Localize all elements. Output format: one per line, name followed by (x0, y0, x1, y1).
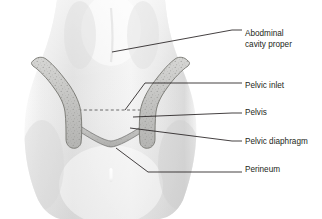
label-pelvic-inlet: Pelvic inlet (245, 81, 285, 90)
label-abdominal-cavity-proper-line2: cavity proper (245, 40, 292, 49)
label-abdominal-cavity-proper-line1: Abodminal (245, 29, 284, 38)
label-perineum: Perineum (245, 165, 280, 174)
anatomy-figure: Abodminal cavity proper Pelvic inlet Pel… (0, 0, 322, 219)
label-pelvis: Pelvis (245, 108, 267, 117)
anatomy-illustration-svg: Abodminal cavity proper Pelvic inlet Pel… (0, 0, 322, 219)
navel-cleft-marking (110, 168, 113, 182)
label-pelvic-diaphragm: Pelvic diaphragm (245, 137, 308, 146)
